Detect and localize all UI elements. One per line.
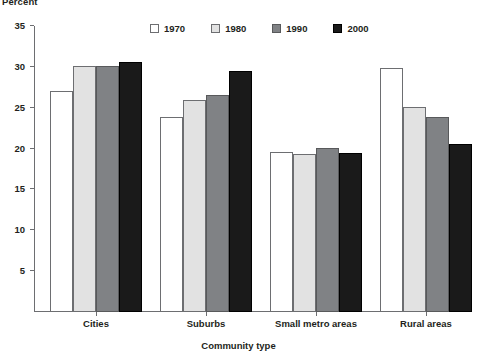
x-category-label: Rural areas — [356, 318, 477, 329]
y-tick-label: 15 — [14, 184, 25, 193]
bar-2000-small-metro-areas[interactable] — [339, 153, 362, 312]
y-tick-label: 35 — [14, 21, 25, 30]
plot-area: 5101520253035 CitiesSuburbsSmall metro a… — [34, 26, 470, 312]
bar-2000-cities[interactable] — [119, 62, 142, 312]
bar-group — [48, 26, 144, 312]
bar-1990-cities[interactable] — [96, 66, 119, 312]
bar-groups — [34, 26, 470, 312]
y-tick-label: 20 — [14, 144, 25, 153]
bar-1990-small-metro-areas[interactable] — [316, 148, 339, 312]
bar-group — [378, 26, 474, 312]
bar-1980-suburbs[interactable] — [183, 100, 206, 312]
bar-1990-rural-areas[interactable] — [426, 117, 449, 312]
x-axis-title: Community type — [0, 340, 477, 351]
y-tick-label: 30 — [14, 62, 25, 71]
x-tick — [96, 312, 97, 316]
x-tick — [206, 312, 207, 316]
bar-2000-suburbs[interactable] — [229, 71, 252, 312]
bar-1990-suburbs[interactable] — [206, 95, 229, 312]
bar-1970-cities[interactable] — [50, 91, 73, 312]
y-tick-label: 10 — [14, 225, 25, 234]
x-tick — [426, 312, 427, 316]
bar-chart: Percent 1970198019902000 5101520253035 C… — [0, 0, 477, 358]
y-axis-title: Percent — [2, 0, 38, 7]
bar-1980-small-metro-areas[interactable] — [293, 154, 316, 312]
x-tick — [316, 312, 317, 316]
bar-1970-rural-areas[interactable] — [380, 68, 403, 312]
bar-1970-small-metro-areas[interactable] — [270, 152, 293, 312]
bar-group — [268, 26, 364, 312]
y-tick-label: 25 — [14, 103, 25, 112]
bar-1980-rural-areas[interactable] — [403, 107, 426, 312]
bar-2000-rural-areas[interactable] — [449, 144, 472, 312]
y-tick-label: 5 — [20, 266, 25, 275]
bar-group — [158, 26, 254, 312]
bar-1970-suburbs[interactable] — [160, 117, 183, 312]
bar-1980-cities[interactable] — [73, 66, 96, 312]
